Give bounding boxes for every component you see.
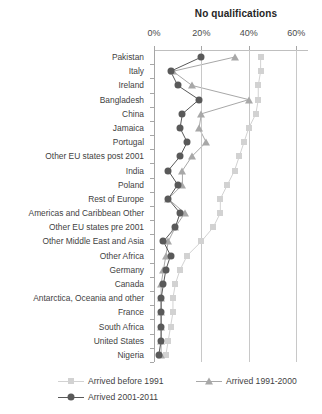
- category-tick-mark: [150, 192, 154, 193]
- data-point-marker: [255, 82, 261, 88]
- category-tick-mark: [150, 178, 154, 179]
- category-tick-mark: [150, 93, 154, 94]
- data-point-marker: [232, 168, 238, 174]
- x-tick-label: 60%: [287, 28, 305, 38]
- legend-label: Arrived 2001-2011: [88, 392, 158, 402]
- x-tick-mark: [249, 46, 250, 50]
- category-tick-mark: [150, 319, 154, 320]
- legend-marker-icon: [58, 392, 84, 402]
- category-label: Nigeria: [117, 351, 144, 359]
- no-qualifications-chart: No qualifications 0%20%40%60% PakistanIt…: [0, 0, 322, 414]
- category-tick-mark: [150, 163, 154, 164]
- data-point-marker: [170, 295, 176, 301]
- category-tick-mark: [150, 291, 154, 292]
- category-tick-mark: [150, 249, 154, 250]
- data-point-marker: [172, 281, 178, 287]
- data-point-marker: [245, 96, 253, 103]
- legend-marker-icon: [58, 376, 84, 386]
- legend-item[interactable]: Arrived 2001-2011: [58, 392, 158, 402]
- gridline: [296, 50, 297, 362]
- category-label: Rest of Europe: [88, 195, 144, 203]
- category-label: United States: [94, 337, 144, 345]
- category-axis-labels: PakistanItalyIrelandBangladeshChinaJamai…: [0, 50, 150, 362]
- data-point-marker: [217, 196, 223, 202]
- data-point-marker: [160, 281, 167, 288]
- series-line: [159, 57, 202, 355]
- data-point-marker: [198, 54, 205, 61]
- category-label: Other Middle East and Asia: [43, 237, 145, 245]
- category-tick-mark: [150, 362, 154, 363]
- category-tick-mark: [150, 263, 154, 264]
- category-label: China: [122, 110, 144, 118]
- category-label: Poland: [118, 181, 144, 189]
- category-tick-mark: [150, 206, 154, 207]
- data-point-marker: [246, 125, 252, 131]
- category-tick-mark: [150, 149, 154, 150]
- category-label: Other Africa: [100, 251, 144, 259]
- data-point-marker: [158, 295, 165, 302]
- category-label: Americas and Caribbean Other: [29, 209, 144, 217]
- data-point-marker: [258, 68, 264, 74]
- x-tick-mark: [296, 46, 297, 50]
- category-tick-mark: [150, 305, 154, 306]
- category-label: Jamaica: [113, 124, 144, 132]
- data-point-marker: [197, 110, 205, 117]
- chart-legend: Arrived before 1991Arrived 1991-2000Arri…: [0, 374, 322, 414]
- data-point-marker: [177, 210, 184, 217]
- data-point-marker: [158, 323, 165, 330]
- category-label: Antarctica, Oceania and other: [33, 294, 144, 302]
- category-tick-mark: [150, 64, 154, 65]
- plot-area: [154, 50, 308, 362]
- x-axis-tick-labels: 0%20%40%60%: [0, 28, 322, 42]
- data-point-marker: [196, 96, 203, 103]
- x-tick-mark: [154, 46, 155, 50]
- x-tick-label: 0%: [147, 28, 160, 38]
- series-lines: [154, 50, 308, 362]
- data-point-marker: [165, 167, 172, 174]
- data-point-marker: [177, 125, 184, 132]
- legend-label: Arrived before 1991: [88, 376, 163, 386]
- category-tick-mark: [150, 277, 154, 278]
- data-point-marker: [179, 110, 186, 117]
- data-point-marker: [210, 224, 216, 230]
- data-point-marker: [231, 54, 239, 61]
- category-label: Portugal: [113, 138, 144, 146]
- category-label: Bangladesh: [100, 95, 144, 103]
- data-point-marker: [258, 54, 264, 60]
- category-label: India: [126, 166, 144, 174]
- data-point-marker: [217, 210, 223, 216]
- data-point-marker: [155, 351, 162, 358]
- data-point-marker: [172, 224, 179, 231]
- data-point-marker: [158, 337, 165, 344]
- data-point-marker: [158, 309, 165, 316]
- data-point-marker: [236, 153, 242, 159]
- data-point-marker: [177, 267, 183, 273]
- data-point-marker: [170, 309, 176, 315]
- data-point-marker: [168, 324, 174, 330]
- data-point-marker: [178, 167, 186, 174]
- category-label: Germany: [110, 266, 144, 274]
- data-point-marker: [255, 97, 261, 103]
- category-tick-mark: [150, 334, 154, 335]
- category-tick-mark: [150, 107, 154, 108]
- legend-item[interactable]: Arrived before 1991: [58, 376, 163, 386]
- data-point-marker: [167, 68, 174, 75]
- category-label: Other EU states post 2001: [45, 152, 144, 160]
- category-label: Canada: [115, 280, 144, 288]
- category-label: Italy: [129, 67, 144, 75]
- data-point-marker: [202, 139, 210, 146]
- category-label: Ireland: [118, 81, 144, 89]
- data-point-marker: [188, 153, 196, 160]
- category-tick-mark: [150, 220, 154, 221]
- data-point-marker: [195, 125, 203, 132]
- x-tick-label: 40%: [240, 28, 258, 38]
- category-tick-mark: [150, 78, 154, 79]
- data-point-marker: [224, 182, 230, 188]
- data-point-marker: [184, 139, 191, 146]
- category-label: South Africa: [99, 322, 144, 330]
- legend-item[interactable]: Arrived 1991-2000: [196, 376, 297, 386]
- data-point-marker: [174, 82, 181, 89]
- category-label: Other EU states pre 2001: [49, 223, 144, 231]
- data-point-marker: [188, 82, 196, 89]
- category-tick-mark: [150, 135, 154, 136]
